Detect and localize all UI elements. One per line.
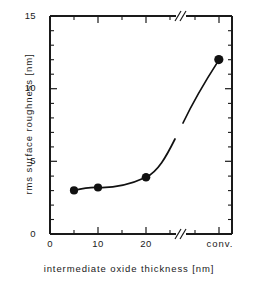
- y-major-ticks: [50, 16, 57, 234]
- data-point: [142, 173, 151, 182]
- data-curve-segment-left: [74, 139, 175, 190]
- data-point: [70, 186, 78, 194]
- data-markers: [70, 55, 224, 194]
- x-major-ticks: [50, 227, 219, 234]
- y-axis-title: rms surface roughness [nm]: [23, 0, 34, 254]
- x-axis-title: intermediate oxide thickness [nm]: [0, 263, 258, 274]
- x-ticks-top: [50, 16, 219, 23]
- axis-frame: [50, 16, 232, 234]
- axis-break-top-icon: [175, 11, 186, 21]
- x-tick-label-20: 20: [126, 238, 166, 249]
- data-curve-segment-right: [183, 61, 219, 123]
- y-ticks-right: [225, 16, 232, 234]
- y-axis-title-container: rms surface roughness [nm]: [23, 0, 37, 254]
- x-tick-label-10: 10: [78, 238, 118, 249]
- data-point: [214, 55, 223, 64]
- axis-break-bottom-icon: [175, 229, 186, 239]
- data-curve: [74, 61, 219, 191]
- x-tick-label-conv: conv.: [197, 238, 243, 249]
- data-point: [94, 183, 102, 191]
- chart-figure: 0 5 10 15 0 10 20 conv. intermediate oxi…: [0, 0, 258, 285]
